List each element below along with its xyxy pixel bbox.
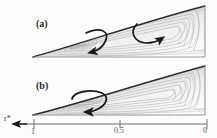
panel-b — [33, 66, 205, 115]
panel-a — [33, 6, 205, 57]
axis-tick-label-0: 0 — [203, 126, 207, 135]
axis-tick-label-1: 1 — [31, 127, 35, 136]
panel-a-label: (a) — [36, 18, 48, 29]
axis-tick-label-05: 0.5 — [114, 126, 124, 135]
axis-title: r* — [4, 114, 11, 123]
figure-canvas — [0, 0, 217, 138]
panel-b-label: (b) — [36, 80, 48, 91]
figure-container: (a) (b) r* 1 0.5 0 — [0, 0, 217, 138]
r-axis — [16, 119, 207, 129]
